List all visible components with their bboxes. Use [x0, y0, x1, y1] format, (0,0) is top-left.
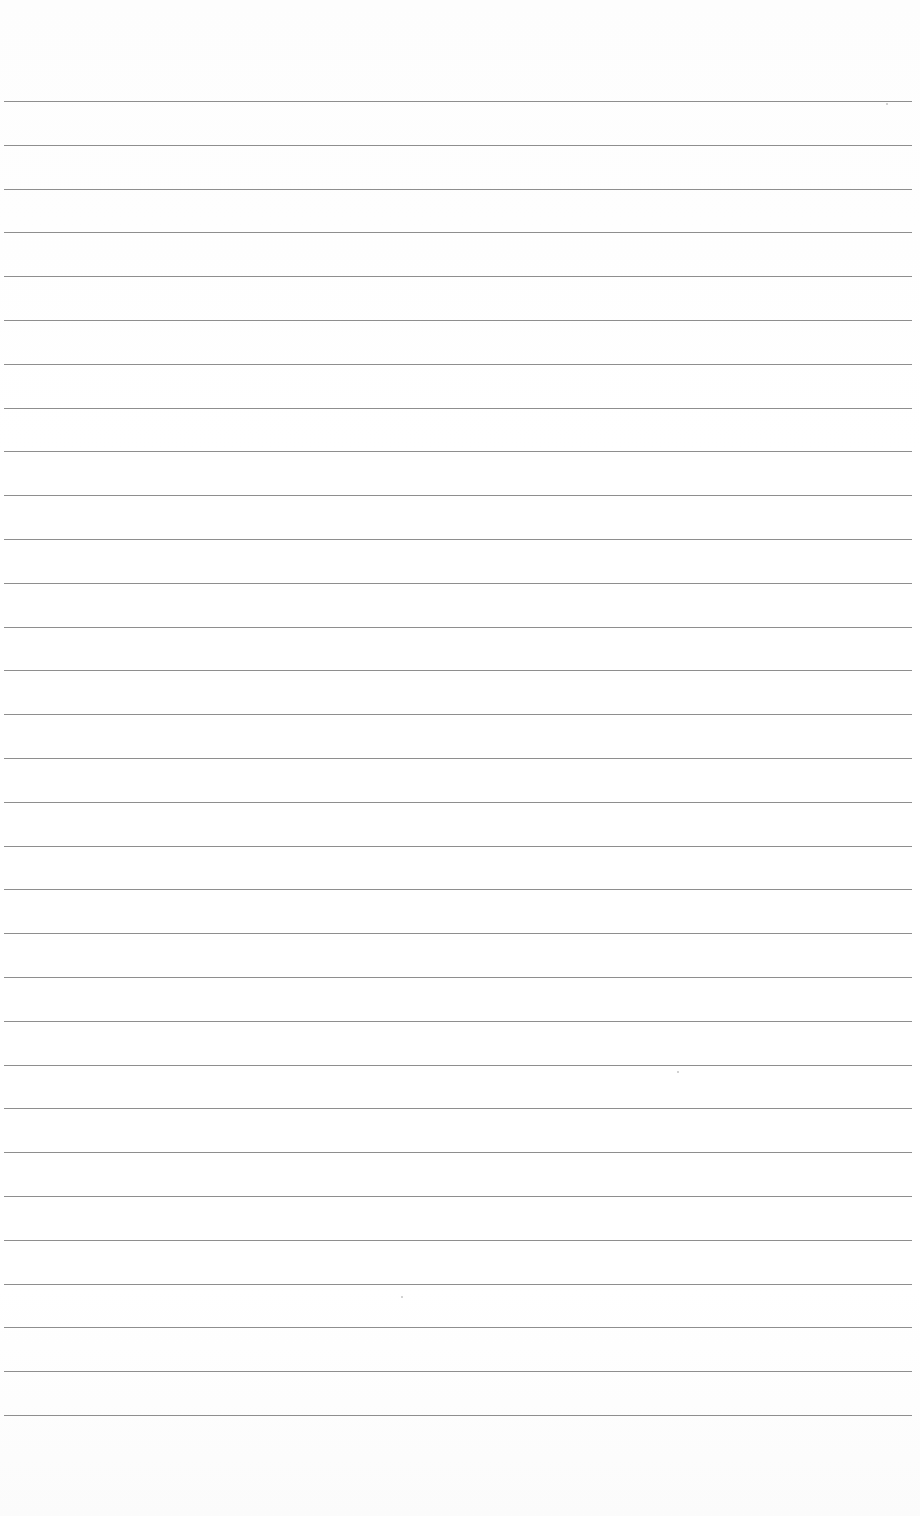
- ruled-line: [4, 583, 912, 584]
- ruled-line: [4, 495, 912, 496]
- scan-speck: [401, 1296, 403, 1298]
- ruled-line: [4, 1284, 912, 1285]
- ruled-line: [4, 320, 912, 321]
- ruled-line: [4, 714, 912, 715]
- ruled-line: [4, 232, 912, 233]
- ruled-line: [4, 1371, 912, 1372]
- ruled-line: [4, 933, 912, 934]
- ruled-line: [4, 408, 912, 409]
- ruled-line: [4, 1108, 912, 1109]
- ruled-line: [4, 977, 912, 978]
- ruled-line: [4, 276, 912, 277]
- lined-paper-sheet: [0, 0, 920, 1516]
- ruled-line: [4, 189, 912, 190]
- ruled-line: [4, 889, 912, 890]
- ruled-line: [4, 1065, 912, 1066]
- scan-speck: [886, 103, 888, 105]
- ruled-line: [4, 1196, 912, 1197]
- ruled-line: [4, 627, 912, 628]
- ruled-line: [4, 539, 912, 540]
- ruled-line: [4, 846, 912, 847]
- ruled-line: [4, 802, 912, 803]
- ruled-line: [4, 101, 912, 102]
- ruled-line: [4, 364, 912, 365]
- scan-speck: [677, 1071, 679, 1073]
- ruled-line: [4, 1021, 912, 1022]
- ruled-line: [4, 1240, 912, 1241]
- ruled-line: [4, 145, 912, 146]
- ruled-line: [4, 758, 912, 759]
- ruled-line: [4, 1327, 912, 1328]
- ruled-line: [4, 1152, 912, 1153]
- ruled-line: [4, 451, 912, 452]
- ruled-line: [4, 1415, 912, 1416]
- ruled-line: [4, 670, 912, 671]
